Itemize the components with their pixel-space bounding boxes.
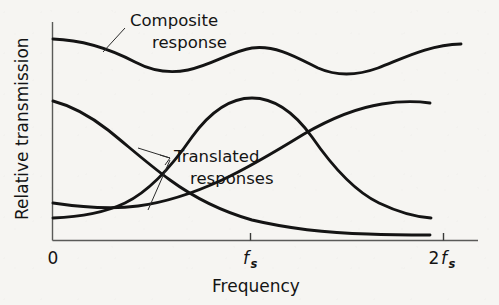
chart-figure: Composite response Translated responses … — [0, 0, 499, 305]
translated-responses-label-line2: responses — [190, 169, 274, 188]
x-tick-label-fs: f s — [243, 248, 258, 271]
svg-text:2: 2 — [429, 248, 440, 268]
composite-response-label-line2: response — [152, 33, 227, 52]
svg-text:s: s — [251, 257, 258, 271]
x-axis-title: Frequency — [212, 276, 300, 296]
curve-translated-response-descending — [53, 101, 430, 235]
y-axis-title: Relative transmission — [12, 37, 32, 220]
curve-composite-response — [53, 39, 461, 74]
x-tick-label-2fs: 2 f s — [429, 248, 456, 271]
svg-text:s: s — [449, 257, 456, 271]
translated-responses-label-line1: Translated — [173, 147, 259, 166]
composite-leader-line — [103, 28, 125, 52]
x-tick-label-0: 0 — [48, 248, 59, 268]
composite-response-label-line1: Composite — [130, 11, 218, 30]
